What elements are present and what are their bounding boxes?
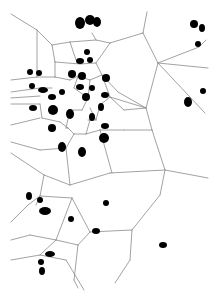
cell-blob [93, 17, 101, 27]
cell-blob [39, 207, 51, 215]
cell-blob [29, 83, 35, 89]
cell-blob [87, 57, 93, 63]
cell-blob [48, 124, 56, 132]
cell-blob [102, 74, 110, 82]
cell-blob [99, 133, 109, 143]
cell-blob [45, 251, 55, 257]
cell-blob [101, 123, 109, 129]
cell-blob [159, 242, 167, 248]
cell-blob [78, 72, 86, 80]
cell-blob [68, 216, 74, 222]
cell-blob [75, 17, 85, 29]
cell-blob [48, 105, 58, 115]
cell-blob [66, 109, 74, 119]
cell-blob [26, 192, 32, 200]
cell-blob [103, 200, 109, 206]
cell-blob [82, 93, 90, 101]
cell-blob [59, 89, 65, 95]
cell-blob [37, 197, 43, 203]
cell-blob [89, 113, 95, 121]
cell-blob [190, 20, 198, 28]
cell-blob [92, 228, 100, 234]
cell-blob [29, 105, 37, 111]
cell-blob [38, 87, 48, 93]
cell-blob [38, 259, 44, 265]
cell-blob [199, 24, 205, 32]
cell-blob [84, 49, 90, 55]
cell-blob [76, 84, 84, 90]
cell-blob [200, 88, 206, 94]
voronoi-diagram [0, 0, 219, 297]
cell-blob [101, 92, 109, 98]
cell-blob [39, 267, 45, 275]
cell-blob [184, 97, 192, 107]
cell-blob [78, 147, 86, 157]
cell-blob [76, 58, 84, 64]
voronoi-svg [0, 0, 219, 297]
cell-blob [36, 70, 42, 76]
cell-blob [89, 85, 95, 91]
background [0, 0, 219, 297]
cell-blob [68, 70, 76, 78]
cell-blob [27, 69, 33, 75]
cell-blob [48, 94, 56, 100]
cell-blob [98, 103, 104, 111]
cell-blob [58, 142, 66, 152]
cell-blob [195, 41, 201, 47]
